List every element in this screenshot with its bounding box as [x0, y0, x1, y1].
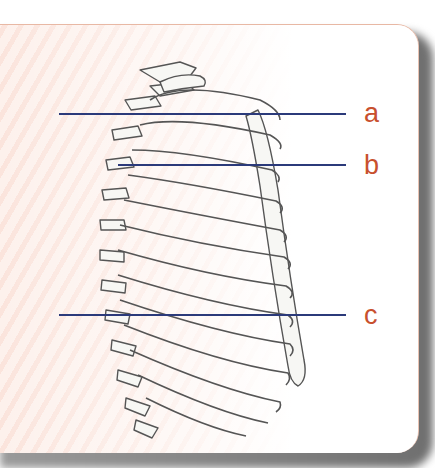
- label-a: a: [364, 100, 379, 127]
- label-c: c: [364, 302, 378, 329]
- vertebral-column: [100, 62, 196, 438]
- label-b: b: [364, 152, 379, 179]
- ribcage-illustration: [0, 0, 435, 468]
- sternum: [246, 110, 305, 386]
